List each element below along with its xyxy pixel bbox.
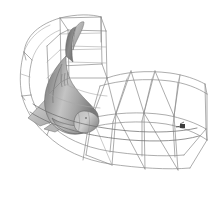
caudal-fin (73, 22, 84, 50)
shark-eye (85, 117, 87, 119)
handle-marker[interactable] (176, 122, 185, 128)
scene-3d-render (0, 0, 216, 197)
figure-canvas: Shark model deformed by a curved free-fo… (0, 0, 216, 197)
